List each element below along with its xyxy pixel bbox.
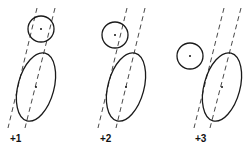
dashed-boundary-line-left bbox=[8, 8, 37, 128]
circle-center-dot bbox=[114, 34, 116, 36]
dashed-boundary-line-right bbox=[25, 8, 55, 128]
panel-label: +1 bbox=[10, 133, 22, 144]
diagram-canvas: +1 +2 +3 bbox=[0, 0, 245, 152]
ellipse-center-dot bbox=[35, 86, 37, 88]
ellipse-center-dot bbox=[221, 86, 223, 88]
panel-label: +3 bbox=[195, 133, 207, 144]
panel-label: +2 bbox=[100, 133, 112, 144]
dashed-boundary-line-right bbox=[210, 8, 241, 128]
circle-center-dot bbox=[189, 55, 191, 57]
panel-1: +1 bbox=[8, 8, 62, 144]
panel-2: +2 bbox=[98, 8, 152, 144]
dashed-boundary-line-left bbox=[194, 8, 224, 128]
circle-center-dot bbox=[40, 28, 42, 30]
dashed-boundary-line-left bbox=[98, 8, 127, 128]
dashed-boundary-line-right bbox=[116, 8, 145, 128]
ellipse-center-dot bbox=[125, 86, 127, 88]
panel-3: +3 bbox=[177, 8, 245, 144]
